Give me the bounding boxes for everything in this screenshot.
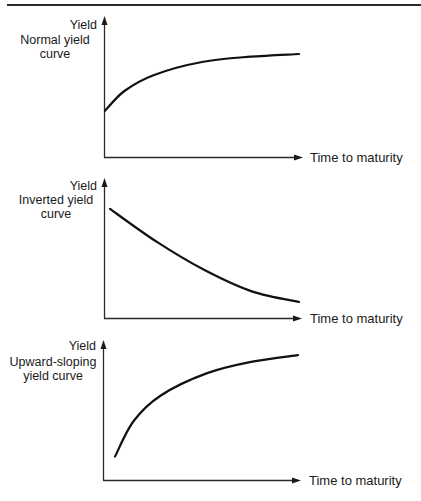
panel-inverted-yield-curve: Yield Inverted yield curve Time to matur…: [0, 165, 421, 330]
x-axis-label: Time to maturity: [309, 474, 402, 488]
x-axis-label: Time to maturity: [310, 151, 403, 165]
y-axis-arrow-icon: [102, 16, 108, 25]
y-axis-label: Yield: [70, 18, 97, 32]
curve-label: Inverted yield curve: [12, 193, 100, 221]
y-axis-arrow-icon: [101, 340, 107, 349]
curve-label-line-2: yield curve: [6, 369, 100, 383]
x-axis-arrow-icon: [292, 478, 301, 484]
upward-sloping-yield-curve-line: [115, 355, 298, 456]
x-axis-label: Time to maturity: [310, 312, 403, 326]
curve-label-line-1: Inverted yield: [12, 193, 100, 207]
curve-label: Normal yield curve: [14, 33, 96, 61]
curve-label-line-2: curve: [12, 207, 100, 221]
normal-yield-curve-line: [105, 54, 299, 111]
curve-label-line-1: Upward-sloping: [6, 355, 100, 369]
normal-yield-chart: [0, 0, 421, 165]
curve-label-line-2: curve: [14, 47, 96, 61]
inverted-yield-curve-line: [110, 209, 299, 302]
y-axis-label: Yield: [70, 179, 97, 193]
curve-label: Upward-sloping yield curve: [6, 355, 100, 383]
curve-label-line-1: Normal yield: [14, 33, 96, 47]
y-axis-arrow-icon: [102, 178, 108, 187]
x-axis-arrow-icon: [294, 155, 303, 161]
y-axis-label: Yield: [69, 339, 96, 353]
x-axis-arrow-icon: [293, 316, 302, 322]
inverted-yield-chart: [0, 165, 421, 330]
panel-normal-yield-curve: Yield Normal yield curve Time to maturit…: [0, 0, 421, 165]
panel-upward-sloping-yield-curve: Yield Upward-sloping yield curve Time to…: [0, 330, 421, 501]
